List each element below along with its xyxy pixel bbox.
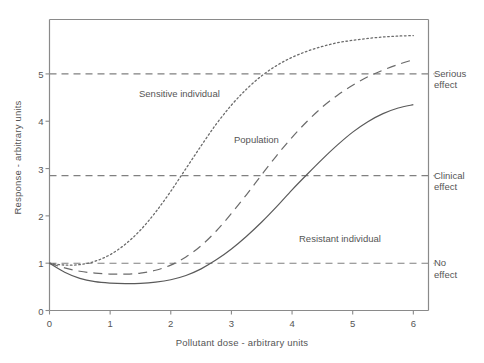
- series-curves-group: [50, 36, 414, 284]
- y-tick-label: 4: [28, 116, 44, 127]
- x-tick-label: 2: [168, 318, 173, 329]
- series-resistant-individual: [50, 105, 414, 284]
- dose-response-chart: Response - arbitrary units Pollutant dos…: [0, 0, 484, 363]
- ref-label-line1: No: [434, 257, 457, 269]
- x-tick-label: 3: [229, 318, 234, 329]
- series-sensitive-individual: [50, 36, 414, 266]
- x-tick-label: 4: [289, 318, 294, 329]
- plot-canvas: [0, 0, 484, 363]
- x-tick-label: 5: [350, 318, 355, 329]
- y-tick-label: 0: [28, 305, 44, 316]
- resistant-individual-label: Resistant individual: [299, 233, 381, 244]
- y-tick-label: 3: [28, 163, 44, 174]
- ref-label-serious-effect: Seriouseffect: [434, 68, 466, 91]
- x-axis-title: Pollutant dose - arbitrary units: [0, 337, 484, 348]
- x-tick-label: 6: [411, 318, 416, 329]
- ref-label-line2: effect: [434, 269, 457, 281]
- x-tick-label: 0: [47, 318, 52, 329]
- y-axis-title: Response - arbitrary units: [12, 78, 23, 238]
- population-label: Population: [234, 134, 279, 145]
- ref-label-line2: effect: [434, 181, 465, 193]
- ref-label-line2: effect: [434, 79, 466, 91]
- axis-frame-group: [50, 20, 429, 311]
- ref-label-line1: Serious: [434, 68, 466, 80]
- y-tick-label: 1: [28, 258, 44, 269]
- x-tick-label: 1: [107, 318, 112, 329]
- y-tick-label: 2: [28, 210, 44, 221]
- y-tick-label: 5: [28, 68, 44, 79]
- axis-ticks-group: [46, 74, 414, 315]
- sensitive-individual-label: Sensitive individual: [139, 88, 220, 99]
- ref-label-clinical-effect: Clinicaleffect: [434, 170, 465, 193]
- ref-label-line1: Clinical: [434, 170, 465, 182]
- ref-label-no-effect: Noeffect: [434, 257, 457, 280]
